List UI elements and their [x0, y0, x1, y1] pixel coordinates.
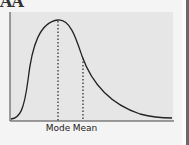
page-edge: [186, 0, 189, 145]
mode-label: Mode: [46, 123, 71, 133]
mean-label: Mean: [73, 123, 98, 133]
plot-area: [10, 12, 173, 121]
